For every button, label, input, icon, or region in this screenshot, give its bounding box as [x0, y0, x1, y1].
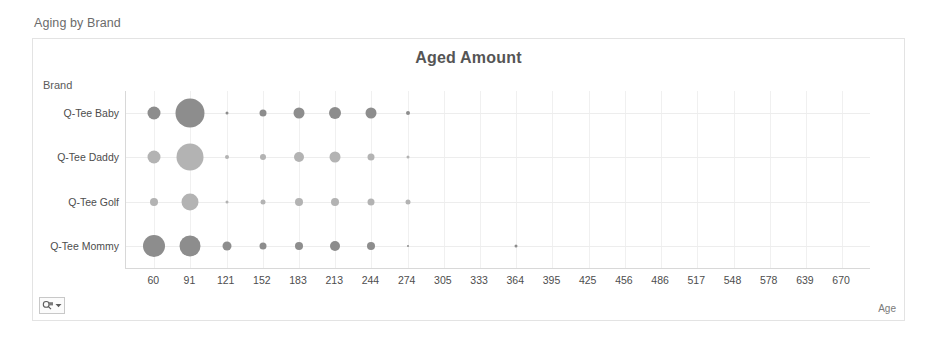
gridline-vertical [444, 91, 445, 268]
data-bubble[interactable] [329, 107, 341, 119]
x-axis-tick-label: 425 [579, 274, 597, 286]
x-axis-tick-label: 183 [289, 274, 307, 286]
data-bubble[interactable] [177, 144, 204, 171]
data-bubble[interactable] [294, 108, 305, 119]
x-axis-tick-label: 91 [184, 274, 196, 286]
data-bubble[interactable] [515, 244, 518, 247]
gridline-vertical [408, 91, 409, 268]
chart-options-button[interactable] [39, 297, 65, 314]
gridline-horizontal [126, 113, 870, 114]
data-bubble[interactable] [368, 154, 375, 161]
data-bubble[interactable] [148, 107, 161, 120]
gridline-vertical [552, 91, 553, 268]
gridline-vertical [625, 91, 626, 268]
x-axis-tick-label: 548 [724, 274, 742, 286]
x-axis-tick-label: 364 [507, 274, 525, 286]
gridline-vertical [516, 91, 517, 268]
caret-down-icon [55, 303, 62, 308]
plot-area[interactable] [125, 91, 870, 269]
data-bubble[interactable] [148, 151, 161, 164]
y-axis-tick-label: Q-Tee Daddy [57, 151, 119, 163]
data-bubble[interactable] [225, 112, 228, 115]
data-bubble[interactable] [406, 111, 410, 115]
x-axis-labels: 6091121152183213244274305333364395425456… [125, 271, 870, 291]
x-axis-tick-label: 333 [470, 274, 488, 286]
x-axis-tick-label: 244 [362, 274, 380, 286]
data-bubble[interactable] [259, 110, 266, 117]
data-bubble[interactable] [330, 152, 341, 163]
data-bubble[interactable] [294, 152, 304, 162]
x-axis-tick-label: 121 [217, 274, 235, 286]
gridline-horizontal [126, 157, 870, 158]
gridline-vertical [806, 91, 807, 268]
gridline-horizontal [126, 246, 870, 247]
data-bubble[interactable] [367, 242, 375, 250]
data-bubble[interactable] [295, 198, 303, 206]
x-axis-tick-label: 670 [832, 274, 850, 286]
gridline-vertical [661, 91, 662, 268]
gridline-vertical [589, 91, 590, 268]
x-axis-tick-label: 274 [398, 274, 416, 286]
x-axis-tick-label: 578 [760, 274, 778, 286]
y-axis-title: Brand [43, 79, 72, 91]
data-bubble[interactable] [222, 241, 231, 250]
data-bubble[interactable] [260, 199, 265, 204]
data-bubble[interactable] [259, 242, 266, 249]
y-axis-tick-label: Q-Tee Baby [64, 107, 119, 119]
x-axis-tick-label: 517 [688, 274, 706, 286]
x-axis-title: Age [878, 303, 896, 314]
x-axis-tick-label: 395 [543, 274, 561, 286]
data-bubble[interactable] [150, 198, 158, 206]
gridline-vertical [697, 91, 698, 268]
data-bubble[interactable] [182, 193, 199, 210]
report-title: Aging by Brand [34, 16, 121, 30]
filter-magnifier-icon [42, 300, 54, 311]
gridline-horizontal [126, 202, 870, 203]
x-axis-tick-label: 486 [651, 274, 669, 286]
chart-card: Aged Amount Brand Q-Tee BabyQ-Tee DaddyQ… [32, 38, 905, 321]
data-bubble[interactable] [225, 155, 229, 159]
data-bubble[interactable] [330, 241, 340, 251]
data-bubble[interactable] [225, 200, 228, 203]
data-bubble[interactable] [176, 99, 205, 128]
gridline-vertical [734, 91, 735, 268]
data-bubble[interactable] [407, 245, 409, 247]
gridline-vertical [842, 91, 843, 268]
x-axis-tick-label: 456 [615, 274, 633, 286]
gridline-vertical [480, 91, 481, 268]
x-axis-tick-label: 639 [796, 274, 814, 286]
chart-title: Aged Amount [33, 49, 904, 67]
data-bubble[interactable] [180, 235, 201, 256]
data-bubble[interactable] [406, 156, 409, 159]
gridline-vertical [770, 91, 771, 268]
x-axis-tick-label: 213 [325, 274, 343, 286]
x-axis-tick-label: 305 [434, 274, 452, 286]
data-bubble[interactable] [143, 235, 165, 257]
data-bubble[interactable] [368, 198, 375, 205]
data-bubble[interactable] [366, 108, 377, 119]
data-bubble[interactable] [331, 198, 339, 206]
x-axis-tick-label: 152 [253, 274, 271, 286]
y-axis-tick-label: Q-Tee Mommy [50, 240, 119, 252]
x-axis-tick-label: 60 [147, 274, 159, 286]
data-bubble[interactable] [295, 242, 303, 250]
data-bubble[interactable] [260, 154, 266, 160]
data-bubble[interactable] [405, 199, 410, 204]
y-axis-labels: Q-Tee BabyQ-Tee DaddyQ-Tee GolfQ-Tee Mom… [33, 91, 119, 269]
y-axis-tick-label: Q-Tee Golf [68, 196, 119, 208]
